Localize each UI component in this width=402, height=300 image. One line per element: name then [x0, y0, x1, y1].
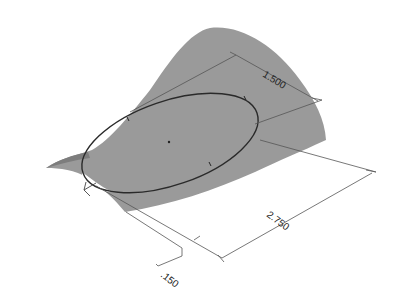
ellipse-center-point[interactable] — [168, 141, 170, 143]
dimension-offset-label: .150 — [159, 269, 181, 290]
dimension-length-label: 2.750 — [265, 209, 292, 233]
cad-viewport: 1.500 2.750 .150 — [0, 0, 402, 300]
